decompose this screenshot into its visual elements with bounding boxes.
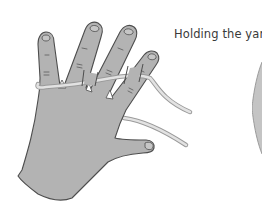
nail-index xyxy=(148,54,156,60)
nail-thumb xyxy=(145,142,153,149)
hand-shape xyxy=(18,22,159,200)
figure-caption: Holding the yarn xyxy=(174,27,262,41)
document-page: Holding the yarn xyxy=(0,0,262,214)
nail-pinky xyxy=(42,35,50,41)
nail-ring xyxy=(90,25,99,31)
partial-illustration-right-edge xyxy=(252,62,262,154)
nail-middle xyxy=(124,29,133,35)
hand-holding-yarn-illustration xyxy=(0,0,200,214)
